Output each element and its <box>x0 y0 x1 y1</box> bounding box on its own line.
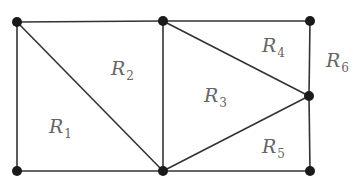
edge-A-E <box>17 22 163 171</box>
edge-C-D <box>309 21 310 96</box>
region-label-r1: R1 <box>48 115 72 141</box>
region-label-r3: R3 <box>203 84 227 110</box>
region-label-r6: R6 <box>325 49 349 75</box>
region-label-r4: R4 <box>261 34 285 60</box>
vertex-A <box>12 17 22 27</box>
edge-D-E <box>163 96 309 171</box>
vertex-G <box>305 166 315 176</box>
vertex-C <box>305 16 315 26</box>
region-label-r2: R2 <box>110 57 134 83</box>
vertex-B <box>158 16 168 26</box>
vertex-D <box>304 91 314 101</box>
edge-D-G <box>309 96 310 171</box>
region-label-r5: R5 <box>261 135 285 161</box>
edge-A-B <box>17 21 163 22</box>
edge-B-D <box>163 21 309 96</box>
planar-graph-diagram: R1 R2 R3 R4 R5 R6 <box>0 0 353 194</box>
vertex-E <box>158 166 168 176</box>
vertex-F <box>12 166 22 176</box>
